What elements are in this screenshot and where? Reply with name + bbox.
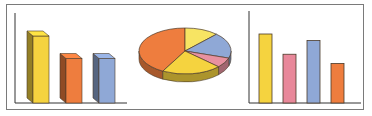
pie-chart-3d bbox=[127, 5, 247, 109]
bar bbox=[259, 34, 272, 103]
bar-chart-3d bbox=[7, 5, 132, 109]
bar-3d bbox=[27, 31, 49, 103]
bar-3d bbox=[93, 54, 115, 104]
bar bbox=[307, 40, 320, 103]
chart-frame bbox=[6, 4, 364, 110]
bar-chart-flat bbox=[243, 5, 365, 109]
bar bbox=[331, 63, 344, 103]
bar-3d bbox=[60, 54, 82, 104]
bar bbox=[283, 54, 296, 103]
